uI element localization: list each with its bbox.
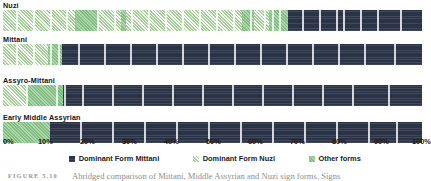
axis-tick-70: 70%: [290, 136, 305, 147]
legend-swatch-other-icon: [309, 156, 315, 162]
figure-caption-text: Abridged comparison of Mittani, Middle A…: [72, 171, 340, 181]
figure-caption: FIGURE 5.10 Abridged comparison of Mitta…: [0, 171, 430, 181]
legend-label-other: Other forms: [318, 154, 360, 163]
bar-label-early-middle-assyrian: Early Middle Assyrian: [3, 113, 422, 122]
axis-tick-30: 30%: [122, 136, 137, 147]
bar-segment-other-forms: [27, 85, 58, 106]
figure-caption-number: FIGURE 5.10: [8, 172, 58, 179]
x-axis-tick-labels: 0% 10% 20% 30% 40% 50% 60% 70% 80% 90% 1…: [3, 136, 422, 147]
legend-swatch-mittani-icon: [69, 156, 75, 162]
bar-segment-other-forms: [48, 44, 62, 65]
bar-track-assyro-mittani: [3, 85, 422, 106]
bar-segment-other-forms: [242, 10, 255, 31]
axis-tick-10: 10%: [38, 136, 53, 147]
legend-label-mittani: Dominant Form Mittani: [79, 154, 159, 163]
axis-tick-50: 50%: [206, 136, 221, 147]
bar-track-mittani: [3, 44, 422, 65]
legend-label-nuzi: Dominant Form Nuzi: [203, 154, 275, 163]
bar-segment-other-forms: [269, 10, 288, 31]
axis-tick-60: 60%: [248, 136, 263, 147]
axis-tick-100: 100%: [412, 136, 431, 147]
bar-segment-mittani-dominant: [63, 85, 422, 106]
legend-item-mittani: Dominant Form Mittani: [69, 154, 159, 163]
bar-segment-other-forms: [75, 10, 97, 31]
axis-tick-80: 80%: [332, 136, 347, 147]
bar-group-mittani: Mittani: [3, 35, 422, 65]
bar-label-mittani: Mittani: [3, 35, 422, 44]
axis-tick-90: 90%: [374, 136, 389, 147]
bar-segment-mittani-dominant: [288, 10, 422, 31]
bar-group-assyro-mittani: Assyro-Mittani: [3, 76, 422, 106]
bar-segment-nuzi-dominant: [3, 85, 27, 106]
legend-swatch-nuzi-icon: [193, 156, 199, 162]
axis-tick-0: 0%: [3, 136, 14, 147]
bar-track-nuzi: [3, 10, 422, 31]
axis-tick-20: 20%: [80, 136, 95, 147]
bar-segment-nuzi-dominant: [3, 44, 48, 65]
bar-label-assyro-mittani: Assyro-Mittani: [3, 76, 422, 85]
bar-segment-nuzi-dominant: [97, 10, 121, 31]
legend-item-nuzi: Dominant Form Nuzi: [193, 154, 275, 163]
legend-item-other: Other forms: [309, 154, 361, 163]
bar-segment-mittani-dominant: [62, 44, 422, 65]
bar-group-nuzi: Nuzi: [3, 1, 422, 31]
chart-legend: Dominant Form Mittani Dominant Form Nuzi…: [0, 152, 430, 165]
axis-tick-40: 40%: [164, 136, 179, 147]
bar-label-nuzi: Nuzi: [3, 1, 422, 10]
bar-segment-nuzi-dominant: [3, 10, 75, 31]
bar-segment-nuzi-dominant: [126, 10, 242, 31]
bar-segment-nuzi-dominant: [254, 10, 269, 31]
